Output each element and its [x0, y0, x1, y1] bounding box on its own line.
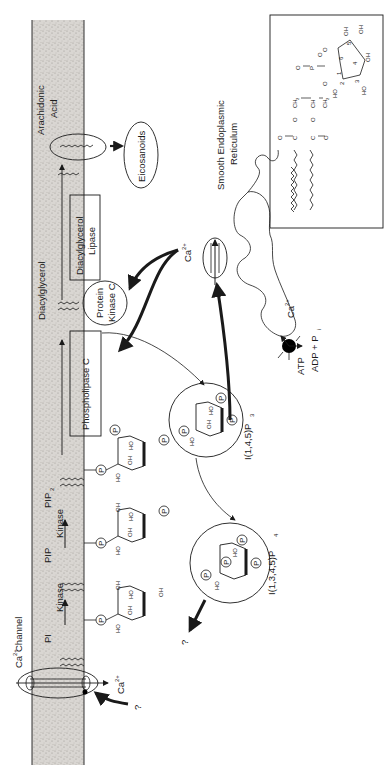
- svg-text:P: P: [97, 618, 106, 623]
- svg-text:P: P: [228, 418, 237, 423]
- svg-text:OH: OH: [127, 528, 133, 537]
- kinase-label-2: Kinase: [54, 583, 65, 612]
- ip4-unknown-fate: ?: [179, 640, 190, 645]
- svg-text:P: P: [160, 509, 169, 514]
- svg-text:P: P: [217, 396, 226, 401]
- phosphoinositide-pathway-diagram: Arachidonic Acid Diacylglycerol PIP 2 PI…: [0, 0, 391, 765]
- svg-text:I(1,3,4,5)P: I(1,3,4,5)P: [266, 551, 277, 595]
- svg-text:HO: HO: [189, 437, 195, 446]
- svg-text:P: P: [111, 428, 120, 433]
- ip3-to-ip4-arrow: [196, 458, 235, 520]
- svg-text:Ca: Ca: [115, 681, 126, 694]
- svg-text:HO: HO: [128, 441, 134, 450]
- svg-text:OH: OH: [343, 27, 349, 36]
- pip-headgroup: P P HO OH HO OH: [84, 503, 169, 555]
- phosphatidylinositol-structure-inset: O C C O O O CH 2 CH CH 2 O P O O O 1 2: [270, 15, 383, 228]
- svg-text:C: C: [310, 135, 316, 140]
- svg-text:O: O: [277, 135, 283, 140]
- svg-text:HO: HO: [115, 546, 121, 555]
- ip4-node: P P P P HO HO: [190, 523, 270, 603]
- svg-text:HO: HO: [232, 548, 238, 557]
- svg-text:Smooth Endoplasmic: Smooth Endoplasmic: [215, 100, 226, 190]
- svg-text:OH: OH: [206, 420, 212, 429]
- svg-text:HO: HO: [128, 590, 134, 599]
- svg-text:2+: 2+: [181, 243, 187, 250]
- pi-label: PI: [42, 634, 53, 643]
- svg-text:O: O: [292, 117, 298, 122]
- svg-text:OH: OH: [127, 606, 133, 615]
- svg-text:Ca: Ca: [182, 249, 193, 262]
- svg-text:3: 3: [249, 413, 255, 417]
- svg-text:Ca: Ca: [13, 655, 24, 668]
- er-calcium-channel: [203, 238, 227, 285]
- diacylglycerol-label: Diacylglycerol: [36, 261, 47, 320]
- svg-text:Diacylglycerol: Diacylglycerol: [74, 216, 85, 275]
- svg-text:O: O: [295, 65, 301, 70]
- svg-text:P: P: [97, 541, 106, 546]
- svg-text:Channel: Channel: [13, 617, 24, 652]
- ip4-fate-arrow: [190, 600, 205, 630]
- svg-text:i: i: [316, 329, 322, 330]
- svg-text:OH: OH: [127, 456, 133, 465]
- svg-text:2: 2: [295, 97, 300, 100]
- svg-text:HO: HO: [214, 581, 220, 590]
- svg-text:Reticulum: Reticulum: [228, 123, 239, 165]
- svg-text:HO: HO: [332, 89, 338, 98]
- protein-kinase-c-node: Protein Kinase C: [83, 281, 127, 325]
- svg-text:OH: OH: [358, 25, 364, 34]
- svg-text:4: 4: [352, 61, 358, 65]
- svg-text:HO: HO: [115, 624, 121, 633]
- svg-text:P: P: [160, 438, 169, 443]
- ip4-label: I(1,3,4,5)P 4: [266, 533, 279, 595]
- svg-text:HO: HO: [361, 86, 367, 95]
- svg-text:P: P: [252, 561, 261, 566]
- svg-text:OH: OH: [115, 503, 121, 512]
- svg-text:HO: HO: [115, 473, 121, 482]
- svg-text:OH: OH: [365, 53, 371, 62]
- svg-text:2: 2: [339, 81, 345, 85]
- er-label: Smooth Endoplasmic Reticulum: [215, 100, 239, 190]
- eicosanoids-node: Eicosanoids: [124, 122, 158, 188]
- svg-text:Eicosanoids: Eicosanoids: [136, 131, 147, 182]
- channel-unknown-regulator: ?: [132, 705, 143, 710]
- svg-text:O: O: [322, 47, 328, 52]
- svg-text:P: P: [180, 429, 189, 434]
- adp-pi-label: ADP + P i: [309, 329, 322, 372]
- svg-text:HO: HO: [208, 406, 214, 415]
- calcium-atpase-pump: [278, 336, 302, 360]
- svg-text:2: 2: [325, 97, 330, 100]
- svg-text:Ca: Ca: [285, 305, 296, 318]
- svg-text:1: 1: [336, 71, 342, 75]
- er-wavy-edge: [248, 150, 278, 192]
- channel-calcium-influx-label: Ca 2+: [114, 675, 126, 694]
- atp-label: ATP: [295, 357, 306, 375]
- pip2-headgroup: P P P HO OH HO: [84, 425, 169, 482]
- svg-text:Kinase C: Kinase C: [106, 283, 117, 322]
- svg-text:I(1,4,5)P: I(1,4,5)P: [242, 424, 253, 460]
- svg-text:P: P: [202, 573, 211, 578]
- svg-text:Phospholipase C: Phospholipase C: [80, 358, 91, 430]
- svg-text:HO: HO: [128, 512, 134, 521]
- svg-text:CH: CH: [310, 99, 316, 108]
- svg-text:OH: OH: [115, 581, 121, 590]
- pi-headgroup: P HO OH HO OH OH: [84, 581, 164, 633]
- svg-text:3: 3: [354, 79, 360, 83]
- svg-text:2+: 2+: [114, 675, 120, 682]
- svg-text:O: O: [322, 81, 328, 86]
- svg-text:P: P: [97, 468, 106, 473]
- svg-text:2+: 2+: [284, 299, 290, 306]
- svg-text:P: P: [238, 538, 247, 543]
- svg-text:P: P: [222, 560, 231, 565]
- svg-text:OH: OH: [158, 588, 164, 597]
- svg-text:Lipase: Lipase: [86, 227, 97, 255]
- arachidonic-acid-label: Arachidonic: [35, 85, 46, 135]
- er-calcium-release-label: Ca 2+: [181, 243, 193, 262]
- ip3-node: P P P HO OH HO: [169, 383, 243, 457]
- er-pump-calcium-label: Ca 2+: [284, 299, 296, 318]
- ip3-label: I(1,4,5)P 3: [242, 413, 255, 460]
- kinase-label-1: Kinase: [54, 509, 65, 538]
- svg-text:PIP: PIP: [42, 493, 53, 508]
- svg-text:ADP + P: ADP + P: [309, 335, 320, 372]
- plc-to-ip3-arrow: [102, 333, 204, 385]
- svg-text:Protein: Protein: [94, 288, 105, 318]
